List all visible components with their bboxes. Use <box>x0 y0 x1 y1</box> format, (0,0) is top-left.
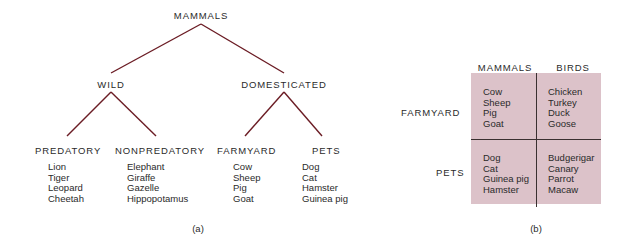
list-item: Lion <box>48 162 84 173</box>
tree-node-predatory: PREDATORY <box>35 145 101 156</box>
matrix-column-header-birds: BIRDS <box>556 62 590 73</box>
tree-node-domesticated: DOMESTICATED <box>241 79 327 90</box>
list-item: Hippopotamus <box>127 194 188 205</box>
list-item: Macaw <box>548 185 594 196</box>
matrix-cell-farmyard-mammals: Cow Sheep Pig Goat <box>483 87 510 129</box>
list-item: Dog <box>302 162 348 173</box>
figure-caption-b: (b) <box>530 223 542 234</box>
tree-node-farmyard: FARMYARD <box>217 145 276 156</box>
matrix-cell-pets-mammals: Dog Cat Guinea pig Hamster <box>483 153 529 195</box>
predatory-list: Lion Tiger Leopard Cheetah <box>48 162 84 204</box>
tree-node-wild: WILD <box>97 79 124 90</box>
matrix-column-header-mammals: MAMMALS <box>478 62 532 73</box>
list-item: Goose <box>548 119 582 130</box>
list-item: Cow <box>483 87 510 98</box>
farmyard-list: Cow Sheep Pig Goat <box>233 162 260 204</box>
tree-node-pets: PETS <box>312 145 340 156</box>
list-item: Dog <box>483 153 529 164</box>
list-item: Hamster <box>483 185 529 196</box>
tree-root-label: MAMMALS <box>174 10 228 21</box>
list-item: Guinea pig <box>302 194 348 205</box>
matrix-cell-pets-birds: Budgerigar Canary Parrot Macaw <box>548 153 594 195</box>
matrix-vertical-divider <box>536 73 537 207</box>
list-item: Cheetah <box>48 194 84 205</box>
tree-node-nonpredatory: NONPREDATORY <box>115 145 205 156</box>
classification-matrix: Cow Sheep Pig Goat Chicken Turkey Duck G… <box>471 73 601 204</box>
list-item: Elephant <box>127 162 188 173</box>
list-item: Cow <box>233 162 260 173</box>
matrix-row-header-pets: PETS <box>436 167 464 178</box>
nonpredatory-list: Elephant Giraffe Gazelle Hippopotamus <box>127 162 188 204</box>
pets-list: Dog Cat Hamster Guinea pig <box>302 162 348 204</box>
list-item: Goat <box>483 119 510 130</box>
matrix-horizontal-divider <box>471 139 601 140</box>
matrix-row-header-farmyard: FARMYARD <box>401 107 460 118</box>
list-item: Chicken <box>548 87 582 98</box>
list-item: Budgerigar <box>548 153 594 164</box>
list-item: Goat <box>233 194 260 205</box>
figure-caption-a: (a) <box>192 223 204 234</box>
matrix-cell-farmyard-birds: Chicken Turkey Duck Goose <box>548 87 582 129</box>
